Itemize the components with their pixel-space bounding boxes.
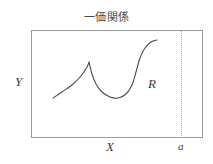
point-label-a: a: [178, 140, 184, 152]
plot-frame: [31, 30, 203, 138]
region-label-r: R: [148, 76, 156, 92]
figure-title: 一価関係: [0, 8, 213, 24]
marker-line-a: [181, 31, 182, 138]
y-axis-label: Y: [15, 74, 22, 90]
x-axis-label: X: [106, 139, 114, 155]
figure-root: 一価関係 Y X R a: [0, 0, 213, 164]
